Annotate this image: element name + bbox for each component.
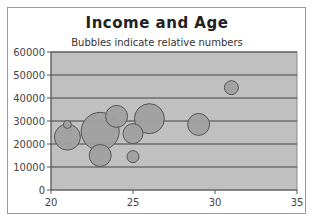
bubble: [224, 81, 238, 95]
y-tick-label: 20000: [13, 139, 45, 150]
bubble-chart-plot: 010000200003000040000500006000020253035: [0, 0, 314, 217]
x-tick-label: 25: [127, 197, 140, 208]
x-tick-label: 20: [45, 197, 58, 208]
bubble: [89, 145, 111, 167]
bubble: [127, 151, 139, 163]
y-tick-label: 50000: [13, 70, 45, 81]
x-tick-label: 35: [291, 197, 304, 208]
bubble: [63, 120, 71, 128]
y-tick-label: 10000: [13, 162, 45, 173]
y-tick-label: 40000: [13, 93, 45, 104]
bubble: [188, 113, 210, 135]
y-tick-label: 60000: [13, 47, 45, 58]
y-tick-label: 30000: [13, 116, 45, 127]
bubble: [123, 124, 143, 144]
y-tick-label: 0: [39, 185, 45, 196]
bubble: [106, 105, 128, 127]
x-tick-label: 30: [209, 197, 222, 208]
